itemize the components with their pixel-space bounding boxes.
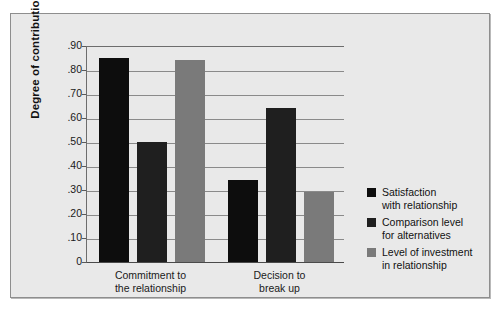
y-tick-label: 0 (52, 256, 82, 267)
bar (228, 180, 258, 262)
bar (175, 60, 205, 262)
legend-item: Satisfaction with relationship (367, 186, 487, 211)
y-tick-mark (82, 190, 86, 191)
x-category-label: Decision to break up (215, 269, 344, 295)
y-tick-label: .80 (52, 64, 82, 75)
y-tick-label: .60 (52, 112, 82, 123)
x-category-label: Commitment to the relationship (86, 269, 215, 295)
legend-label: Comparison level for alternatives (382, 216, 463, 241)
bar (137, 142, 167, 262)
y-axis-tick-labels: .90.80.70.60.50.40.30.20.100 (50, 0, 82, 311)
y-tick-mark (82, 214, 86, 215)
y-tick-mark (82, 46, 86, 47)
y-tick-label: .20 (52, 208, 82, 219)
legend-swatch-icon (367, 188, 376, 197)
plot-area (86, 46, 344, 263)
legend-swatch-icon (367, 248, 376, 257)
legend-label: Level of investment in relationship (382, 246, 472, 271)
y-tick-label: .30 (52, 184, 82, 195)
y-tick-label: .10 (52, 232, 82, 243)
legend-swatch-icon (367, 218, 376, 227)
legend-item: Level of investment in relationship (367, 246, 487, 271)
bar (99, 58, 129, 262)
bar (304, 192, 334, 262)
bar (266, 108, 296, 262)
y-tick-label: .40 (52, 160, 82, 171)
y-tick-label: .70 (52, 88, 82, 99)
y-tick-mark (82, 238, 86, 239)
chart-legend: Satisfaction with relationshipComparison… (367, 186, 487, 276)
y-tick-mark (82, 118, 86, 119)
y-tick-label: .50 (52, 136, 82, 147)
chart-figure: Degree of contribution .90.80.70.60.50.4… (0, 0, 502, 311)
y-tick-mark (82, 262, 86, 263)
y-axis-title: Degree of contribution (29, 0, 51, 166)
legend-label: Satisfaction with relationship (382, 186, 457, 211)
y-tick-mark (82, 142, 86, 143)
y-tick-mark (82, 70, 86, 71)
legend-item: Comparison level for alternatives (367, 216, 487, 241)
y-tick-mark (82, 94, 86, 95)
y-tick-mark (82, 166, 86, 167)
y-tick-label: .90 (52, 40, 82, 51)
